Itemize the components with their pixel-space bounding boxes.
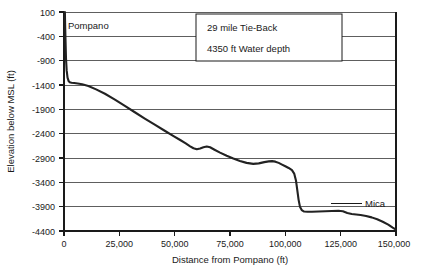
y-tick-marks xyxy=(59,12,64,231)
x-tick-label: 150,000 xyxy=(378,239,411,249)
y-axis-title: Elevation below MSL (ft) xyxy=(5,70,16,173)
x-tick-label: 75,000 xyxy=(216,239,244,249)
y-tick-label: 100 xyxy=(40,8,55,18)
y-tick-label: -3400 xyxy=(32,178,55,188)
annotation-textbox: 29 mile Tie-Back 4350 ft Water depth xyxy=(196,14,342,61)
y-tick-labels: 100 -400 -900 -1400 -1900 -2400 -2900 -3… xyxy=(32,8,55,237)
annotation-line-1: 29 mile Tie-Back xyxy=(207,22,277,33)
elevation-profile-chart: 100 -400 -900 -1400 -1900 -2400 -2900 -3… xyxy=(0,0,421,275)
x-tick-label: 125,000 xyxy=(324,239,357,249)
annotation-line-2: 4350 ft Water depth xyxy=(207,43,290,54)
x-tick-marks xyxy=(64,231,396,236)
y-tick-label: -3900 xyxy=(32,202,55,212)
y-tick-label: -900 xyxy=(37,56,55,66)
mica-label: Mica xyxy=(365,198,386,209)
y-tick-label: -400 xyxy=(37,32,55,42)
x-tick-label: 25,000 xyxy=(106,239,134,249)
x-tick-labels: 0 25,000 50,000 75,000 100,000 125,000 1… xyxy=(61,239,410,249)
chart-canvas: 100 -400 -900 -1400 -1900 -2400 -2900 -3… xyxy=(0,0,421,275)
y-tick-label: -1900 xyxy=(32,105,55,115)
x-tick-label: 100,000 xyxy=(269,239,302,249)
y-tick-label: -2900 xyxy=(32,154,55,164)
y-tick-label: -1400 xyxy=(32,81,55,91)
x-axis-title: Distance from Pompano (ft) xyxy=(172,254,288,265)
pompano-label: Pompano xyxy=(68,20,109,31)
y-tick-label: -2400 xyxy=(32,129,55,139)
x-tick-label: 0 xyxy=(61,239,66,249)
x-tick-label: 50,000 xyxy=(161,239,189,249)
y-tick-label: -4400 xyxy=(32,227,55,237)
